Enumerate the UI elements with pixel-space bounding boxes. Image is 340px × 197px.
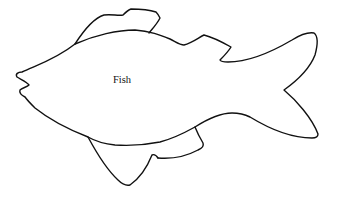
anal-fin bbox=[158, 127, 203, 158]
fish-outline-icon bbox=[0, 0, 340, 197]
fish-diagram: Fish bbox=[0, 0, 340, 197]
fish-label: Fish bbox=[113, 75, 131, 86]
body-outline bbox=[16, 30, 318, 145]
